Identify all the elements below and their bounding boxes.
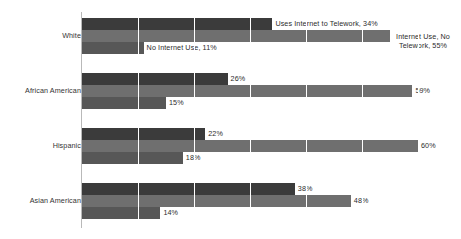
bar-callout-telework-white: Uses Internet to Telework, 34%: [272, 19, 377, 28]
bar-value-notelework-asian-american: 48%: [351, 196, 369, 205]
bar-telework-african-american[interactable]: [82, 73, 228, 85]
bar-notelework-white[interactable]: [82, 30, 390, 42]
bar-notelework-asian-american[interactable]: [82, 195, 351, 207]
bar-callout-nointernet-white: No Internet Use, 11%: [144, 43, 217, 52]
bar-nointernet-hispanic[interactable]: [82, 152, 183, 164]
bar-nointernet-white[interactable]: [82, 42, 144, 54]
bar-value-telework-hispanic: 22%: [205, 129, 223, 138]
bar-callout-notelework-white: Internet Use, No Telework, 55%: [386, 32, 460, 50]
bar-value-telework-african-american: 26%: [228, 74, 246, 83]
bar-value-nointernet-asian-american: 14%: [160, 208, 178, 217]
bar-value-nointernet-hispanic: 18%: [183, 153, 201, 162]
category-label-hispanic: Hispanic: [0, 141, 81, 150]
bar-nointernet-asian-american[interactable]: [82, 207, 160, 219]
category-label-asian-american: Asian American: [0, 196, 81, 205]
bar-nointernet-african-american[interactable]: [82, 97, 166, 109]
bar-telework-white[interactable]: [82, 18, 272, 30]
bar-telework-asian-american[interactable]: [82, 183, 295, 195]
bar-value-nointernet-african-american: 15%: [166, 98, 184, 107]
plot-area: White Uses Internet to Telework, 34% No …: [0, 0, 461, 239]
bar-chart: White Uses Internet to Telework, 34% No …: [0, 0, 461, 239]
category-label-african-american: African American: [0, 86, 81, 95]
bar-notelework-african-american[interactable]: [82, 85, 412, 97]
bar-telework-hispanic[interactable]: [82, 128, 205, 140]
bar-value-notelework-hispanic: 60%: [418, 141, 436, 150]
bar-value-notelework-african-american: 59%: [412, 86, 430, 95]
bar-value-telework-asian-american: 38%: [295, 184, 313, 193]
category-label-white: White: [0, 31, 81, 40]
bar-notelework-hispanic[interactable]: [82, 140, 418, 152]
